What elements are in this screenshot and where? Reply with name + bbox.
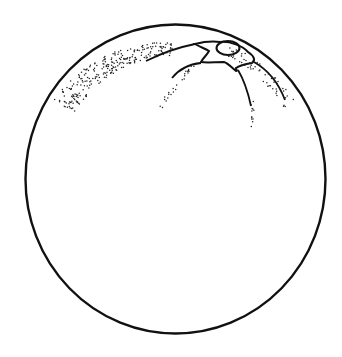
segment-line-mid — [172, 63, 201, 78]
orange-outline — [26, 25, 326, 334]
stipple-shading — [54, 42, 294, 127]
stem-calyx — [195, 42, 254, 71]
orange-illustration — [0, 0, 342, 357]
segment-line-right1 — [238, 70, 251, 106]
orange-drawing — [0, 0, 342, 357]
